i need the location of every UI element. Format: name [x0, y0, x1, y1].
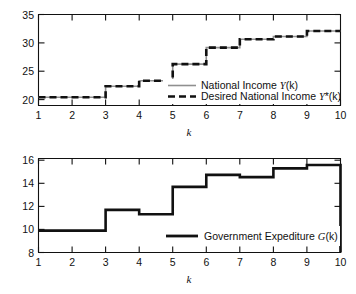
top-xtick-label-1: 1	[36, 109, 42, 121]
bottom-chart-svg: 16 14 12 10 8	[0, 147, 356, 294]
bottom-xtick-label-5: 5	[170, 256, 176, 268]
bottom-xtick-label-8: 8	[270, 256, 276, 268]
bottom-xaxis-label: k	[187, 273, 193, 285]
top-xtick-label-2: 2	[69, 109, 75, 121]
top-ytick-label-30: 30	[22, 37, 34, 49]
bottom-legend: Government Expediture G(k)	[160, 226, 340, 246]
top-ytick-label-20: 20	[22, 94, 34, 106]
top-legend: National Income Y(k) Desired National In…	[163, 79, 341, 104]
top-ytick-label-35: 35	[22, 9, 34, 21]
top-xtick-label-8: 8	[270, 109, 276, 121]
bottom-xtick-label-6: 6	[203, 256, 209, 268]
top-xtick-label-9: 9	[304, 109, 310, 121]
bottom-ytick-label-10: 10	[22, 223, 34, 235]
top-xtick-label-6: 6	[203, 109, 209, 121]
top-xtick-label-7: 7	[237, 109, 243, 121]
chart-panel-national-income: 35 30 25 20	[0, 0, 356, 147]
top-chart-svg: 35 30 25 20	[0, 0, 356, 147]
bottom-xtick-label-1: 1	[36, 256, 42, 268]
bottom-ytick-label-12: 12	[22, 200, 34, 212]
bottom-ytick-label-16: 16	[22, 154, 34, 166]
bottom-xtick-label-2: 2	[69, 256, 75, 268]
top-ytick-label-25: 25	[22, 65, 34, 77]
legend-label-desired-national-income: Desired National Income Y*(k)	[201, 90, 341, 102]
top-xtick-label-10: 10	[335, 109, 347, 121]
legend-label-government-expenditure: Government Expediture G(k)	[204, 230, 338, 242]
top-xtick-label-5: 5	[170, 109, 176, 121]
chart-panel-government-expenditure: 16 14 12 10 8	[0, 147, 356, 294]
bottom-xtick-label-7: 7	[237, 256, 243, 268]
top-xtick-label-3: 3	[103, 109, 109, 121]
top-xaxis-label: k	[187, 126, 193, 138]
bottom-xtick-label-3: 3	[103, 256, 109, 268]
bottom-xtick-label-10: 10	[335, 256, 347, 268]
bottom-xtick-label-4: 4	[136, 256, 142, 268]
bottom-ytick-label-14: 14	[22, 177, 34, 189]
figure-two-panel-step-plots: 35 30 25 20	[0, 0, 356, 294]
bottom-ytick-label-8: 8	[28, 247, 34, 259]
top-xtick-label-4: 4	[136, 109, 142, 121]
bottom-xtick-label-9: 9	[304, 256, 310, 268]
